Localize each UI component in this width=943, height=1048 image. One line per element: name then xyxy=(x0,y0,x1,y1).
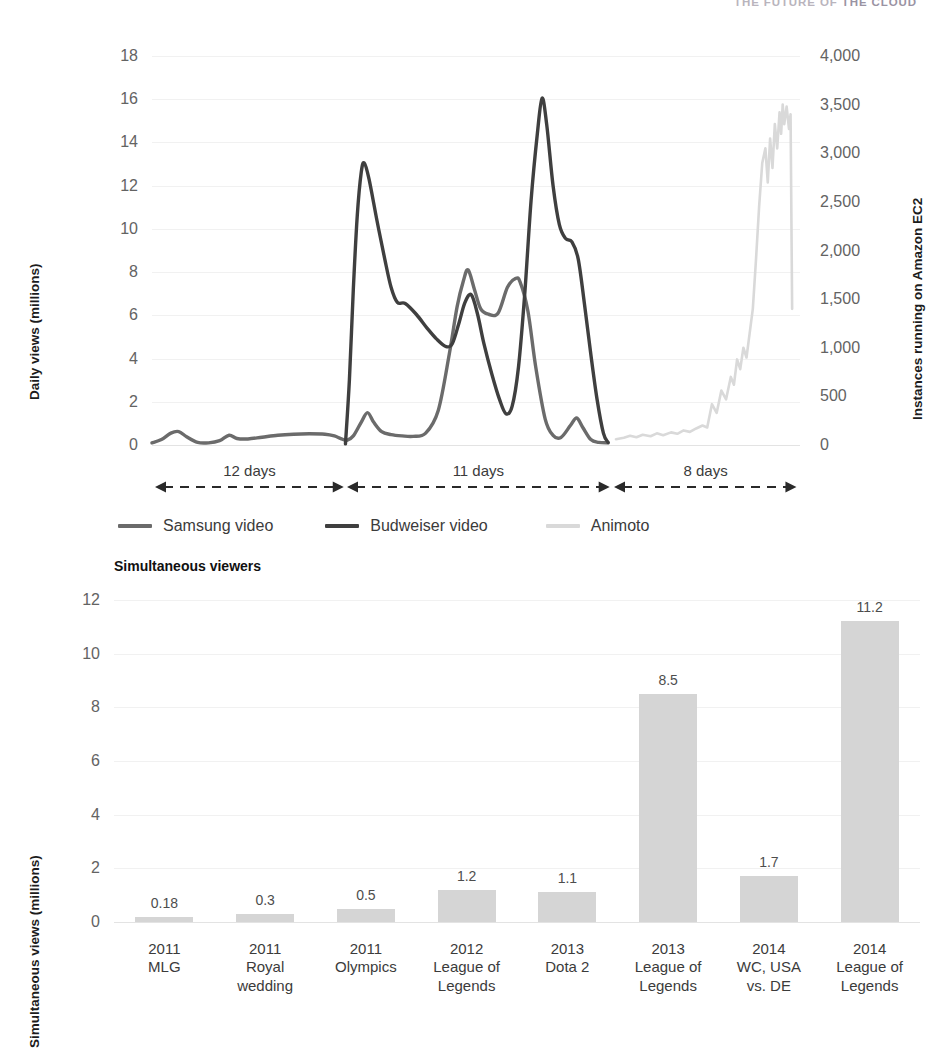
chart2-gridline xyxy=(114,761,920,762)
chart2-bar-value-label: 11.2 xyxy=(820,600,920,614)
chart2-y-tick-label: 0 xyxy=(34,914,100,930)
chart2-gridline xyxy=(114,654,920,655)
chart2-category-label-line: Olympics xyxy=(312,958,421,976)
chart1-legend-swatch xyxy=(546,524,580,528)
chart1-duration-arrow xyxy=(347,478,610,496)
chart2-y-tick-label: 2 xyxy=(34,860,100,876)
chart2-gridline xyxy=(114,815,920,816)
chart2-category-label-line: Legends xyxy=(815,977,924,995)
chart2-category-label-line: Dota 2 xyxy=(513,958,622,976)
chart1-series-samsung-video xyxy=(152,270,608,443)
chart2-category-label-line: 2011 xyxy=(211,940,320,958)
chart2-bar-value-label: 1.1 xyxy=(517,871,617,885)
chart1-legend-swatch xyxy=(325,524,359,528)
chart-daily-views-vs-ec2-instances: 024681012141618 05001,0001,5002,0002,500… xyxy=(0,0,943,545)
chart2-category-label-line: 2014 xyxy=(715,940,824,958)
chart2-category-label: 2013Dota 2 xyxy=(513,940,622,977)
chart2-category-label-line: wedding xyxy=(211,977,320,995)
chart2-bar-value-label: 0.18 xyxy=(114,896,214,910)
chart1-series-budweiser-video xyxy=(345,98,608,444)
chart1-duration-label: 12 days xyxy=(155,463,344,478)
chart2-bar[interactable] xyxy=(236,914,294,922)
chart2-bar-value-label: 1.2 xyxy=(417,869,517,883)
chart2-category-label-line: 2013 xyxy=(614,940,723,958)
chart1-duration-label: 8 days xyxy=(614,463,796,478)
chart2-bar[interactable] xyxy=(538,892,596,922)
chart2-category-label-line: League of xyxy=(412,958,521,976)
chart1-duration-arrow xyxy=(614,478,796,496)
chart2-category-label: 2013League ofLegends xyxy=(614,940,723,995)
chart1-legend: Samsung videoBudweiser videoAnimoto xyxy=(118,518,649,534)
chart2-category-label-line: Legends xyxy=(614,977,723,995)
chart1-legend-item[interactable]: Samsung video xyxy=(118,518,273,534)
chart2-category-label-line: League of xyxy=(815,958,924,976)
chart2-bar-value-label: 8.5 xyxy=(618,673,718,687)
chart2-category-label: 2011Olympics xyxy=(312,940,421,977)
chart-simultaneous-viewers: Simultaneous viewers 024681012 Simultane… xyxy=(0,548,943,1040)
chart1-legend-item[interactable]: Budweiser video xyxy=(325,518,487,534)
chart2-bar[interactable] xyxy=(639,694,697,922)
chart2-y-axis-title: Simultaneous views (millions) xyxy=(28,855,42,1048)
chart2-gridline xyxy=(114,707,920,708)
chart2-category-label-line: 2011 xyxy=(110,940,219,958)
chart2-category-label-line: Legends xyxy=(412,977,521,995)
chart2-category-label-line: WC, USA xyxy=(715,958,824,976)
chart1-legend-item[interactable]: Animoto xyxy=(546,518,650,534)
chart2-category-label: 2012League ofLegends xyxy=(412,940,521,995)
chart2-gridline xyxy=(114,600,920,601)
chart2-bar-value-label: 0.3 xyxy=(215,893,315,907)
chart2-y-tick-label: 6 xyxy=(34,753,100,769)
chart1-legend-swatch xyxy=(118,524,152,528)
chart2-category-label: 2014WC, USAvs. DE xyxy=(715,940,824,995)
chart1-legend-label: Animoto xyxy=(591,518,650,534)
chart1-legend-label: Samsung video xyxy=(163,518,273,534)
chart2-y-tick-label: 12 xyxy=(34,592,100,608)
chart2-bar-value-label: 0.5 xyxy=(316,888,416,902)
chart2-bar[interactable] xyxy=(135,917,193,922)
chart2-bar[interactable] xyxy=(337,909,395,922)
chart2-category-label-line: 2014 xyxy=(815,940,924,958)
chart2-category-label-line: Royal xyxy=(211,958,320,976)
chart2-bar[interactable] xyxy=(438,890,496,922)
chart1-series-animoto xyxy=(616,105,792,440)
chart2-category-label-line: League of xyxy=(614,958,723,976)
chart2-category-label-line: vs. DE xyxy=(715,977,824,995)
chart2-title: Simultaneous viewers xyxy=(114,559,261,573)
chart2-category-label: 2011Royalwedding xyxy=(211,940,320,995)
chart2-bar[interactable] xyxy=(740,876,798,922)
chart1-duration-arrow xyxy=(155,478,344,496)
chart2-y-tick-label: 10 xyxy=(34,646,100,662)
chart2-category-label-line: 2013 xyxy=(513,940,622,958)
chart1-duration-label: 11 days xyxy=(347,463,610,478)
chart2-category-label-line: 2011 xyxy=(312,940,421,958)
chart2-bar-value-label: 1.7 xyxy=(719,855,819,869)
chart2-gridline xyxy=(114,922,920,923)
chart1-legend-label: Budweiser video xyxy=(370,518,487,534)
chart2-category-label: 2014League ofLegends xyxy=(815,940,924,995)
chart2-category-label-line: MLG xyxy=(110,958,219,976)
chart2-y-tick-label: 4 xyxy=(34,807,100,823)
chart2-category-label-line: 2012 xyxy=(412,940,521,958)
chart2-bar[interactable] xyxy=(841,621,899,922)
chart2-y-tick-label: 8 xyxy=(34,699,100,715)
chart2-category-label: 2011MLG xyxy=(110,940,219,977)
